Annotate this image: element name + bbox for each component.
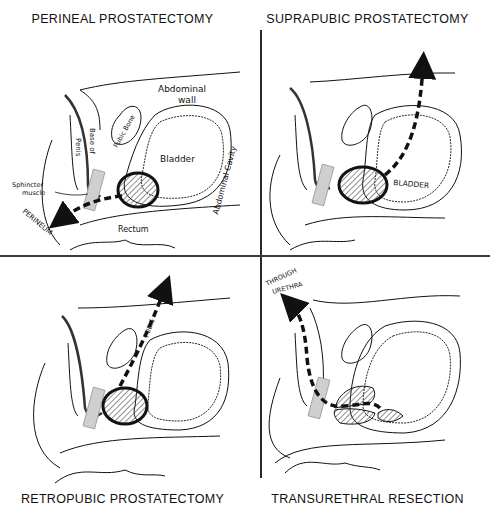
panel-transurethral: THROUGH URETHRA TRANSURETHRAL RESECTION <box>245 258 490 516</box>
transurethral-anatomy-drawing: THROUGH URETHRA <box>245 258 490 516</box>
label-abdominal-wall: Abdominal <box>158 84 206 94</box>
label-bladder: Bladder <box>160 154 195 164</box>
label-pubis: PUBIS <box>142 318 156 339</box>
label-wall: wall <box>178 95 196 105</box>
panel-retropubic: PUBIS RETROPUBIC PROSTATECTOMY <box>0 258 245 516</box>
panel-suprapubic: SUPRAPUBIC PROSTATECTOMY BLADDER <box>245 0 490 258</box>
vertical-divider <box>260 30 262 478</box>
panel-title: RETROPUBIC PROSTATECTOMY <box>0 492 245 506</box>
suprapubic-anatomy-drawing: BLADDER <box>245 0 490 258</box>
label-base-of: Base of <box>88 128 96 155</box>
horizontal-divider <box>0 255 490 257</box>
label-penis: Penis <box>74 138 82 157</box>
panel-perineal: PERINEAL PROSTATECTOMY Abd <box>0 0 245 258</box>
label-rectum: Rectum <box>118 225 149 234</box>
label-perineum: PERINEUM <box>21 207 54 237</box>
label-sphincter: Sphincter <box>12 181 43 189</box>
label-muscle: muscle <box>22 189 45 197</box>
label-bladder: BLADDER <box>393 178 430 190</box>
prostatectomy-figure: PERINEAL PROSTATECTOMY Abd <box>0 0 490 516</box>
panel-title: TRANSURETHRAL RESECTION <box>245 492 490 506</box>
perineal-anatomy-drawing: Abdominal wall Pubic Bone Base of Penis … <box>0 0 245 258</box>
retropubic-anatomy-drawing: PUBIS <box>0 258 245 516</box>
